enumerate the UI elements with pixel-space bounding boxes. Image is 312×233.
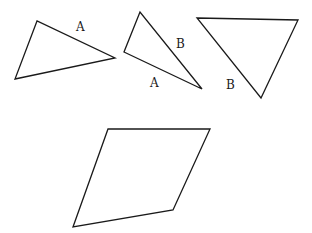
triangle-1-label-a: A: [75, 20, 85, 34]
triangle-3-label-b: B: [226, 78, 235, 92]
triangle-2: [124, 12, 202, 89]
triangle-2-label-b: B: [176, 37, 185, 51]
triangle-2-label-a: A: [149, 76, 159, 90]
triangle-3: [197, 18, 298, 98]
parallelogram: [73, 129, 210, 227]
triangle-1: [15, 21, 115, 79]
diagram-canvas: A B A B: [0, 0, 312, 233]
